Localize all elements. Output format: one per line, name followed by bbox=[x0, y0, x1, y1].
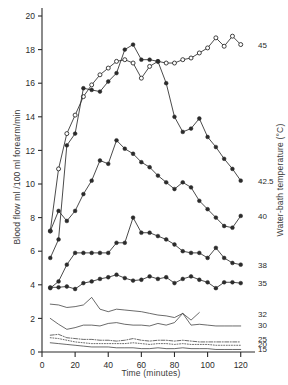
data-point bbox=[214, 286, 218, 290]
data-point bbox=[239, 214, 243, 218]
data-point bbox=[115, 138, 119, 142]
data-point bbox=[173, 115, 177, 119]
series-35 bbox=[48, 273, 242, 291]
data-point bbox=[222, 256, 226, 260]
series-label-45: 45 bbox=[258, 41, 267, 50]
data-point bbox=[172, 61, 176, 65]
data-point bbox=[206, 135, 210, 139]
data-point bbox=[181, 130, 185, 134]
data-point bbox=[181, 249, 185, 253]
data-point bbox=[222, 44, 226, 48]
data-point bbox=[156, 277, 160, 281]
data-point bbox=[123, 48, 127, 52]
series-line bbox=[50, 45, 240, 258]
data-point bbox=[131, 43, 135, 47]
data-point bbox=[189, 127, 193, 131]
data-point bbox=[231, 280, 235, 284]
data-point bbox=[73, 132, 77, 136]
data-point bbox=[131, 279, 135, 283]
x-axis-title: Time (minutes) bbox=[96, 368, 206, 378]
data-point bbox=[230, 34, 234, 38]
data-point bbox=[148, 231, 152, 235]
data-point bbox=[239, 179, 243, 183]
data-point bbox=[239, 43, 243, 47]
data-point bbox=[106, 275, 110, 279]
series-label-40: 40 bbox=[258, 212, 267, 221]
data-point bbox=[197, 51, 201, 55]
y-tick-label: 20 bbox=[26, 11, 36, 21]
series-label-15: 15 bbox=[258, 345, 267, 354]
data-point bbox=[123, 276, 127, 280]
series-25 bbox=[50, 334, 240, 342]
data-series bbox=[48, 34, 242, 349]
data-point bbox=[189, 56, 193, 60]
data-point bbox=[123, 147, 127, 151]
y-tick-label: 10 bbox=[26, 179, 36, 189]
data-point bbox=[98, 73, 102, 77]
data-point bbox=[131, 216, 135, 220]
data-point bbox=[139, 231, 143, 235]
series-line bbox=[50, 343, 240, 350]
data-point bbox=[90, 179, 94, 183]
series-line bbox=[50, 36, 240, 231]
data-point bbox=[82, 251, 86, 255]
data-point bbox=[173, 243, 177, 247]
x-tick-label: 0 bbox=[40, 360, 45, 370]
data-point bbox=[173, 187, 177, 191]
series-end-labels: 4542.54038353230252015 bbox=[258, 41, 274, 355]
y-tick-label: 2 bbox=[30, 314, 35, 324]
series-32 bbox=[50, 297, 199, 320]
series-label-42.5: 42.5 bbox=[258, 177, 274, 186]
data-point bbox=[90, 280, 94, 284]
data-point bbox=[239, 281, 243, 285]
y-tick-label: 12 bbox=[26, 146, 36, 156]
chart-plot-area: 4542.54038353230252015 02468101214161820… bbox=[0, 0, 288, 385]
data-point bbox=[189, 185, 193, 189]
data-point bbox=[106, 80, 110, 84]
data-point bbox=[57, 209, 61, 213]
series-label-30: 30 bbox=[258, 321, 267, 330]
data-point bbox=[65, 132, 69, 136]
data-point bbox=[73, 209, 77, 213]
axes bbox=[38, 8, 255, 357]
x-tick-label: 20 bbox=[70, 360, 80, 370]
data-point bbox=[189, 251, 193, 255]
data-point bbox=[73, 251, 77, 255]
data-point bbox=[57, 285, 61, 289]
data-point bbox=[48, 229, 52, 233]
data-point bbox=[115, 71, 119, 75]
data-point bbox=[98, 90, 102, 94]
data-point bbox=[139, 278, 143, 282]
data-point bbox=[206, 256, 210, 260]
data-point bbox=[222, 224, 226, 228]
data-point bbox=[131, 152, 135, 156]
data-point bbox=[115, 273, 119, 277]
data-point bbox=[206, 46, 210, 50]
data-point bbox=[123, 58, 127, 62]
data-point bbox=[65, 285, 69, 289]
data-point bbox=[115, 241, 119, 245]
series-38 bbox=[48, 216, 242, 290]
series-45 bbox=[48, 34, 242, 233]
series-label-32: 32 bbox=[258, 310, 267, 319]
data-point bbox=[48, 285, 52, 289]
data-point bbox=[164, 180, 168, 184]
tick-labels: 02468101214161820020406080100120 bbox=[26, 11, 249, 370]
y-tick-label: 18 bbox=[26, 45, 36, 55]
series-label-35: 35 bbox=[258, 279, 267, 288]
y-tick-label: 0 bbox=[30, 347, 35, 357]
series-line bbox=[50, 313, 240, 329]
series-line bbox=[50, 275, 240, 289]
x-tick-label: 120 bbox=[234, 360, 248, 370]
data-point bbox=[65, 263, 69, 267]
data-point bbox=[181, 58, 185, 62]
data-point bbox=[82, 281, 86, 285]
y-tick-label: 8 bbox=[30, 213, 35, 223]
data-point bbox=[164, 81, 168, 85]
series-30 bbox=[50, 313, 240, 329]
data-point bbox=[98, 251, 102, 255]
data-point bbox=[139, 76, 143, 80]
series-line bbox=[50, 334, 240, 342]
data-point bbox=[214, 36, 218, 40]
data-point bbox=[131, 61, 135, 65]
